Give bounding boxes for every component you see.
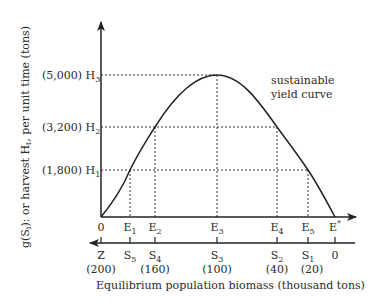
stock-value-40: (40) <box>266 263 289 276</box>
x-axis-title: Equilibrium population biomass (thousand… <box>96 279 365 292</box>
curve-annotation-line2: yield curve <box>270 88 333 101</box>
sustainable-yield-diagram: (5,000) H3 (3,200) H2 (1,800) H1 g(Si): … <box>0 0 375 307</box>
h3-label: (5,000) H3 <box>42 69 100 84</box>
effort-label-e2: E2 <box>148 221 161 236</box>
stock-ticks <box>101 237 335 243</box>
stock-label-s1: S1 <box>302 249 315 264</box>
stock-label-s3: S3 <box>211 249 224 264</box>
effort-label-e5: E5 <box>301 221 314 236</box>
h2-label: (3,200) H2 <box>42 121 100 136</box>
stock-label-s4: S4 <box>149 249 162 264</box>
stock-label-0: 0 <box>332 249 339 262</box>
y-axis-title: g(Si): or harvest Ht, per unit time (ton… <box>19 26 33 248</box>
effort-label-e4: E4 <box>270 221 283 236</box>
stock-value-100: (100) <box>202 263 232 276</box>
stock-label-z: Z <box>97 249 105 262</box>
effort-label-estar: E* <box>329 219 341 234</box>
stock-value-20: (20) <box>301 263 324 276</box>
h1-label: (1,800) H1 <box>42 164 100 179</box>
effort-label-e1: E1 <box>123 221 136 236</box>
effort-label-e3: E3 <box>210 221 223 236</box>
stock-label-s2: S2 <box>271 249 284 264</box>
stock-value-160: (160) <box>140 263 170 276</box>
effort-label-0: 0 <box>98 221 105 234</box>
curve-annotation-line1: sustainable <box>271 74 335 87</box>
stock-value-200: (200) <box>86 263 116 276</box>
stock-label-s5: S5 <box>124 249 137 264</box>
